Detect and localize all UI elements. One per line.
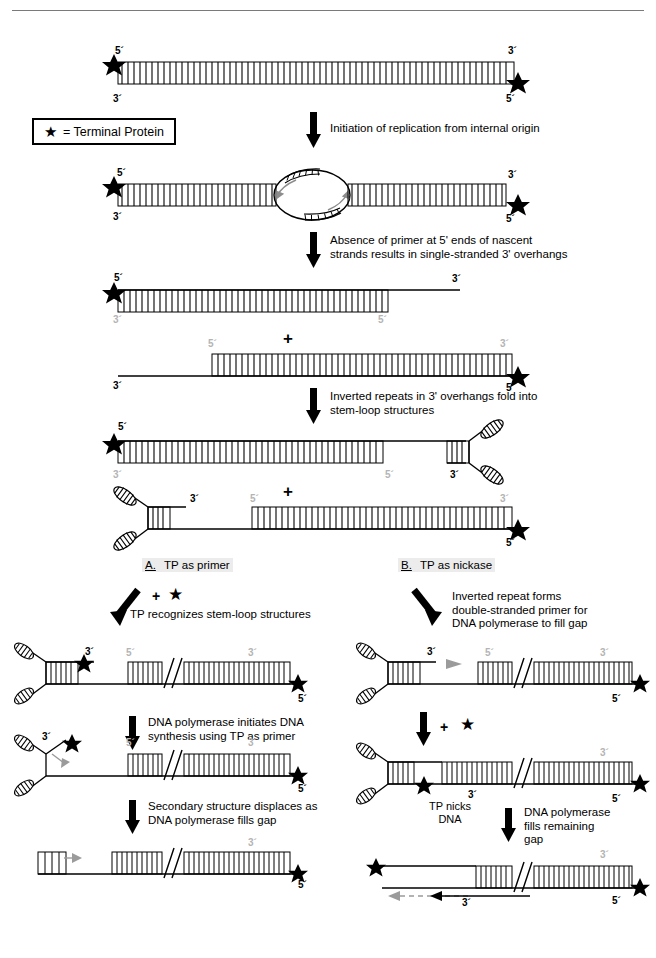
star-icon: ★ bbox=[44, 124, 57, 139]
label-3prime: 3´ bbox=[427, 647, 436, 657]
label-5prime: 5´ bbox=[126, 648, 135, 658]
label-5prime: 5´ bbox=[298, 694, 307, 704]
panel-a1 bbox=[8, 648, 308, 708]
label-5prime: 5´ bbox=[378, 315, 387, 325]
label-3prime: 3´ bbox=[113, 381, 122, 391]
label-3prime: 3´ bbox=[113, 94, 122, 104]
label-3prime: 3´ bbox=[248, 648, 257, 658]
branch-b-arrow bbox=[408, 588, 448, 628]
label-3prime: 3´ bbox=[508, 46, 517, 56]
terminal-protein-star bbox=[630, 674, 650, 692]
label-3prime: 3´ bbox=[508, 170, 517, 180]
label-3prime: 3´ bbox=[600, 748, 609, 758]
label-5prime: 5´ bbox=[115, 46, 124, 56]
terminal-protein-star bbox=[62, 734, 82, 752]
terminal-protein-star bbox=[630, 878, 650, 896]
branch-b-plus: + bbox=[440, 720, 448, 734]
panel-stemloop-bottom bbox=[100, 495, 530, 557]
branch-a-arrow-3 bbox=[124, 800, 142, 836]
label-5prime: 5´ bbox=[250, 494, 259, 504]
step-arrow-2 bbox=[305, 232, 323, 270]
label-5prime: 5´ bbox=[298, 784, 307, 794]
label-5prime: 5´ bbox=[612, 896, 621, 906]
terminal-protein-star bbox=[366, 858, 386, 876]
step-arrow-1 bbox=[305, 112, 323, 150]
label-5prime: 5´ bbox=[126, 738, 135, 748]
label-3prime: 3´ bbox=[248, 838, 257, 848]
label-3prime: 3´ bbox=[248, 738, 257, 748]
label-5prime: 5´ bbox=[118, 422, 127, 432]
section-a-letter: A. bbox=[145, 559, 156, 571]
terminal-protein-star bbox=[102, 282, 126, 304]
label-5prime: 5´ bbox=[114, 273, 123, 283]
label-3prime: 3´ bbox=[113, 212, 122, 222]
label-3prime: 3´ bbox=[500, 494, 509, 504]
label-3prime: 3´ bbox=[113, 470, 122, 480]
section-heading-b: B. TP as nickase bbox=[398, 558, 495, 572]
label-3prime: 3´ bbox=[500, 339, 509, 349]
label-5prime: 5´ bbox=[612, 694, 621, 704]
label-3prime: 3´ bbox=[462, 898, 471, 908]
panel-replication-bubble bbox=[100, 168, 530, 224]
label-5prime: 5´ bbox=[117, 168, 126, 178]
panel-a2 bbox=[8, 730, 308, 792]
section-b-text: TP as nickase bbox=[420, 559, 492, 571]
branch-b-step1-caption: Inverted repeat forms double-stranded pr… bbox=[452, 590, 588, 631]
section-b-letter: B. bbox=[401, 559, 412, 571]
terminal-protein-star bbox=[288, 674, 308, 692]
header-rule bbox=[12, 10, 644, 11]
branch-a-plus: + bbox=[152, 589, 160, 603]
panel-overhang-bottom bbox=[100, 342, 530, 388]
label-5prime: 5´ bbox=[385, 470, 394, 480]
label-3prime: 3´ bbox=[468, 790, 477, 800]
label-5prime: 5´ bbox=[506, 538, 515, 548]
terminal-protein-star bbox=[102, 433, 126, 455]
label-5prime: 5´ bbox=[485, 648, 494, 658]
step-3-caption: Inverted repeats in 3' overhangs fold in… bbox=[330, 390, 537, 417]
branch-b-step3-caption: DNA polymerase fills remaining gap bbox=[524, 806, 610, 847]
label-5prime: 5´ bbox=[208, 339, 217, 349]
star-icon: ★ bbox=[168, 586, 183, 603]
label-3prime: 3´ bbox=[85, 647, 94, 657]
label-3prime: 3´ bbox=[42, 732, 51, 742]
step-arrow-3 bbox=[305, 388, 323, 426]
diagram-page: 5´ 3´ 3´ 5´ ★ = Terminal Protein Initiat… bbox=[0, 0, 656, 958]
terminal-protein-star bbox=[630, 774, 650, 792]
step-1-caption: Initiation of replication from internal … bbox=[330, 122, 540, 136]
branch-a-step3-caption: Secondary structure displaces as DNA pol… bbox=[148, 800, 317, 827]
label-5prime: 5´ bbox=[298, 880, 307, 890]
label-3prime: 3´ bbox=[600, 850, 609, 860]
panel-duplex-initial bbox=[100, 48, 530, 98]
label-5prime: 5´ bbox=[612, 794, 621, 804]
branch-b-arrow-2 bbox=[415, 712, 433, 748]
legend-box: ★ = Terminal Protein bbox=[32, 118, 176, 145]
legend-label: = Terminal Protein bbox=[63, 125, 164, 139]
branch-b-arrow-3 bbox=[500, 808, 518, 844]
label-5prime: 5´ bbox=[506, 214, 515, 224]
label-5prime: 5´ bbox=[506, 94, 515, 104]
terminal-protein-star bbox=[414, 776, 434, 794]
label-3prime: 3´ bbox=[450, 470, 459, 480]
star-icon: ★ bbox=[460, 716, 475, 733]
label-3prime: 3´ bbox=[113, 315, 122, 325]
panel-a3 bbox=[8, 840, 308, 896]
section-a-text: TP as primer bbox=[164, 559, 230, 571]
label-3prime: 3´ bbox=[452, 274, 461, 284]
section-heading-a: A. TP as primer bbox=[142, 558, 233, 572]
terminal-protein-star bbox=[288, 766, 308, 784]
panel-stemloop-top bbox=[100, 425, 530, 485]
label-3prime: 3´ bbox=[190, 494, 199, 504]
label-3prime: 3´ bbox=[600, 648, 609, 658]
step-2-caption: Absence of primer at 5' ends of nascent … bbox=[330, 234, 567, 261]
branch-a-step1-caption: TP recognizes stem-loop structures bbox=[130, 608, 311, 622]
terminal-protein-star bbox=[506, 72, 530, 94]
panel-b3 bbox=[350, 852, 650, 908]
branch-b-nick-note: TP nicks DNA bbox=[410, 800, 490, 826]
